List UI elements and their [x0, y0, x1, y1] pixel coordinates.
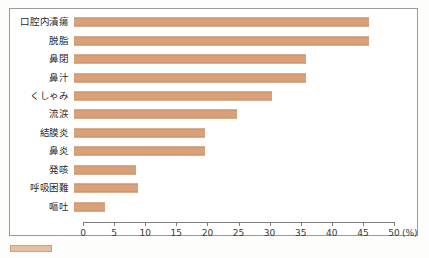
- bar-track: [74, 31, 417, 49]
- plot-frame: 口腔内潰瘍脱脂鼻閉鼻汁くしゃみ流涙結膜炎鼻炎発咳呼吸困難嘔吐 051015202…: [9, 8, 418, 236]
- bar-row: 呼吸困難: [10, 179, 417, 197]
- x-axis-tick-label: 45: [357, 228, 368, 238]
- bar-row: 脱脂: [10, 31, 417, 49]
- category-label: 呼吸困難: [10, 183, 74, 193]
- bar-row: 鼻炎: [10, 142, 417, 160]
- bar-track: [74, 87, 417, 105]
- chart-figure: 口腔内潰瘍脱脂鼻閉鼻汁くしゃみ流涙結膜炎鼻炎発咳呼吸困難嘔吐 051015202…: [0, 0, 429, 258]
- category-label: くしゃみ: [10, 91, 74, 101]
- x-axis-tick: [301, 222, 302, 226]
- bar-row: 口腔内潰瘍: [10, 13, 417, 31]
- category-label: 流涙: [10, 109, 74, 119]
- x-axis-tick: [83, 222, 84, 226]
- bar-track: [74, 50, 417, 68]
- x-axis-tick: [239, 222, 240, 226]
- x-axis-tick-label: 25: [233, 228, 244, 238]
- bar: [74, 147, 205, 156]
- bar-track: [74, 68, 417, 86]
- category-label: 鼻炎: [10, 146, 74, 156]
- x-axis-tick-label: 30: [264, 228, 275, 238]
- x-axis-tick: [114, 222, 115, 226]
- category-label: 鼻汁: [10, 73, 74, 83]
- bar-track: [74, 13, 417, 31]
- category-label: 嘔吐: [10, 202, 74, 212]
- x-axis-tick: [145, 222, 146, 226]
- bar: [74, 91, 272, 100]
- bar: [74, 55, 306, 64]
- bar-row: 鼻閉: [10, 50, 417, 68]
- x-axis-tick-label: 35: [295, 228, 306, 238]
- x-axis-tick: [176, 222, 177, 226]
- x-axis-unit-label: (%): [402, 228, 418, 238]
- bar-rows: 口腔内潰瘍脱脂鼻閉鼻汁くしゃみ流涙結膜炎鼻炎発咳呼吸困難嘔吐: [10, 13, 417, 216]
- bar-row: くしゃみ: [10, 87, 417, 105]
- bar: [74, 165, 136, 174]
- x-axis-tick-label: 15: [171, 228, 182, 238]
- bar: [74, 36, 369, 45]
- bar: [74, 184, 138, 193]
- bar: [74, 128, 205, 137]
- bar-row: 結膜炎: [10, 124, 417, 142]
- bar-track: [74, 179, 417, 197]
- bar: [74, 202, 105, 211]
- bar-row: 流涙: [10, 105, 417, 123]
- category-label: 結膜炎: [10, 128, 74, 138]
- x-axis-tick: [207, 222, 208, 226]
- x-axis-tick-label: 20: [202, 228, 213, 238]
- bar: [74, 73, 306, 82]
- bar: [74, 18, 369, 27]
- bar: [74, 110, 237, 119]
- bar-track: [74, 124, 417, 142]
- bar-row: 発咳: [10, 161, 417, 179]
- category-label: 発咳: [10, 165, 74, 175]
- x-axis-tick-label: 10: [139, 228, 150, 238]
- bar-track: [74, 197, 417, 215]
- bar-row: 嘔吐: [10, 197, 417, 215]
- x-axis-tick: [332, 222, 333, 226]
- category-label: 口腔内潰瘍: [10, 17, 74, 27]
- category-label: 脱脂: [10, 36, 74, 46]
- source-color-swatch: [10, 245, 52, 252]
- bar-track: [74, 142, 417, 160]
- category-label: 鼻閉: [10, 54, 74, 64]
- x-axis-tick: [363, 222, 364, 226]
- x-axis-tick-label: 0: [80, 228, 86, 238]
- x-axis: 05101520253035404550: [83, 222, 394, 223]
- x-axis-tick-label: 40: [326, 228, 337, 238]
- bar-row: 鼻汁: [10, 68, 417, 86]
- x-axis-tick-label: 5: [111, 228, 117, 238]
- bar-track: [74, 105, 417, 123]
- x-axis-tick: [394, 222, 395, 226]
- x-axis-tick: [270, 222, 271, 226]
- x-axis-tick-label: 50: [388, 228, 399, 238]
- bar-track: [74, 161, 417, 179]
